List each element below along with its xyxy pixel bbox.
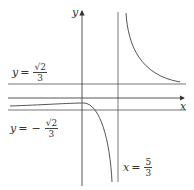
y-axis-label: y [72, 6, 78, 19]
vert-eq: = [131, 161, 140, 174]
vert-fraction: 53 [144, 157, 152, 178]
upper-den: 3 [37, 73, 43, 83]
lower-sign: − [31, 122, 40, 135]
right-branch-curve [126, 13, 180, 82]
upper-num: √2 [33, 62, 46, 73]
upper-lhs: y [12, 66, 18, 79]
vert-lhs: x [123, 161, 129, 174]
left-branch-curve [10, 103, 112, 182]
lower-eq: = [18, 122, 27, 135]
lower-lhs: y [10, 122, 16, 135]
x-axis-label: x [180, 100, 186, 113]
vert-num: 5 [144, 157, 152, 168]
lower-num: √2 [45, 118, 58, 129]
upper-fraction: √23 [33, 62, 46, 83]
vert-den: 3 [145, 168, 151, 178]
lower-asymptote-label: y=−√23 [10, 118, 58, 139]
graph-plot [0, 0, 194, 190]
upper-eq: = [20, 66, 29, 79]
lower-fraction: √23 [45, 118, 58, 139]
upper-asymptote-label: y=√23 [12, 62, 47, 83]
lower-den: 3 [49, 129, 55, 139]
vertical-asymptote-label: x=53 [123, 157, 152, 178]
